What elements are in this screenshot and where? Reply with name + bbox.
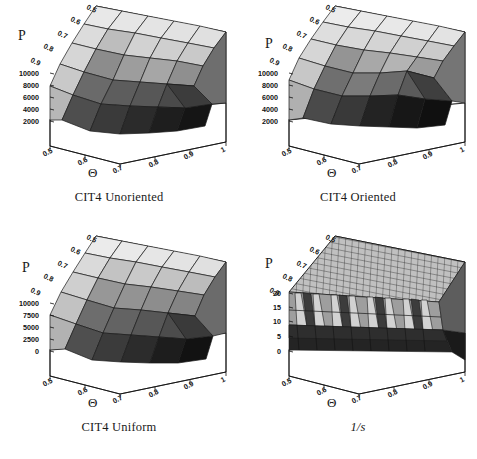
z-tick-1: 8000 [262, 81, 278, 90]
z-tick-3: 4000 [23, 105, 39, 114]
z-tick-4: 0 [277, 347, 281, 356]
z-tick-1: 7500 [23, 311, 39, 320]
z-tick-1: 8000 [23, 81, 39, 90]
surface-plot-cit4-unoriented: P 0.5 0.6 0.7 0.8 0.9 10000 8000 6000 40… [0, 0, 238, 196]
z-tick-1: 15 [273, 303, 281, 312]
panel-cit4-uniform: P 0.5 0.6 0.7 0.8 0.9 10000 7500 5000 25… [0, 230, 238, 459]
figure-grid: P 0.5 0.6 0.7 0.8 0.9 10000 8000 6000 40… [0, 0, 477, 459]
z-tick-3: 5 [277, 332, 281, 341]
z-axis-label: P [18, 28, 26, 44]
surface-plot-cit4-uniform: P 0.5 0.6 0.7 0.8 0.9 10000 7500 5000 25… [0, 230, 238, 426]
z-axis-label: P [265, 36, 273, 52]
z-tick-3: 2500 [23, 335, 39, 344]
panel-caption-one-over-s: 1/s [239, 420, 477, 435]
z-tick-0: 20 [273, 289, 281, 298]
z-tick-4: 2000 [262, 117, 278, 126]
z-tick-0: 10000 [258, 69, 278, 78]
x-axis-label: Θ [327, 165, 336, 181]
panel-cit4-oriented: P 0.5 0.6 0.7 0.8 0.9 10000 8000 6000 40… [239, 0, 477, 229]
z-tick-4: 2000 [23, 117, 39, 126]
z-axis-label: P [22, 260, 30, 276]
x-axis-label: Θ [88, 395, 97, 411]
z-tick-0: 10000 [19, 69, 39, 78]
surface-plot-one-over-s: P 0.5 0.6 0.7 0.8 0.9 20 15 10 5 0 0.5 0… [239, 230, 477, 426]
x-axis-label: Θ [88, 165, 97, 181]
panel-caption-cit4-unoriented: CIT4 Unoriented [0, 190, 238, 205]
panel-cit4-unoriented: P 0.5 0.6 0.7 0.8 0.9 10000 8000 6000 40… [0, 0, 238, 229]
panel-caption-cit4-uniform: CIT4 Uniform [0, 420, 238, 435]
z-tick-0: 10000 [19, 299, 39, 308]
z-tick-2: 5000 [23, 323, 39, 332]
z-tick-2: 10 [273, 317, 281, 326]
z-axis-label: P [265, 256, 273, 272]
z-tick-4: 0 [35, 347, 39, 356]
z-tick-2: 6000 [23, 93, 39, 102]
x-axis-label: Θ [327, 395, 336, 411]
panel-caption-cit4-oriented: CIT4 Oriented [239, 190, 477, 205]
surface-plot-cit4-oriented: P 0.5 0.6 0.7 0.8 0.9 10000 8000 6000 40… [239, 0, 477, 196]
panel-one-over-s: P 0.5 0.6 0.7 0.8 0.9 20 15 10 5 0 0.5 0… [239, 230, 477, 459]
z-tick-2: 6000 [262, 93, 278, 102]
z-tick-3: 4000 [262, 105, 278, 114]
